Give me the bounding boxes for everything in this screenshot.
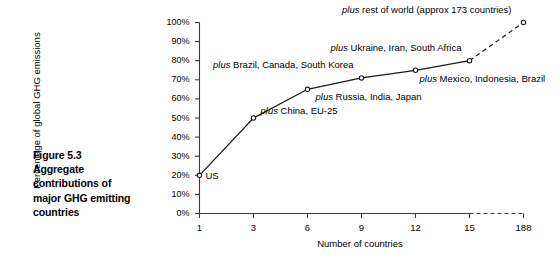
- data-point-annotation: US: [206, 170, 219, 181]
- annotation-text: Brazil, Canada, South Korea: [230, 59, 353, 70]
- data-point-marker: [413, 68, 417, 72]
- x-axis-tick-label: 1: [180, 223, 220, 233]
- annotation-emphasis: plus: [420, 73, 437, 84]
- data-point-annotation: plus rest of world (approx 173 countries…: [0, 4, 512, 15]
- annotation-text: China, EU-25: [278, 105, 338, 116]
- data-point-marker: [521, 20, 525, 24]
- data-point-annotation: plus Russia, India, Japan: [316, 91, 422, 102]
- y-axis-tick-label: 30%: [146, 152, 190, 161]
- data-point-annotation: plus Mexico, Indonesia, Brazil: [420, 73, 546, 84]
- annotation-emphasis: plus: [316, 91, 333, 102]
- line-chart: Percentage of global GHG emissions Numbe…: [0, 0, 560, 261]
- x-axis-tick-label: 3: [234, 223, 274, 233]
- data-point-marker: [251, 116, 255, 120]
- annotation-emphasis: plus: [342, 4, 359, 15]
- y-axis-tick-label: 20%: [146, 171, 190, 180]
- y-axis-tick-label: 60%: [146, 94, 190, 103]
- data-point-marker: [467, 59, 471, 63]
- annotation-text: US: [206, 170, 219, 181]
- y-axis-tick-label: 100%: [146, 18, 190, 27]
- y-axis-title: Percentage of global GHG emissions: [31, 11, 42, 211]
- data-point-marker: [305, 87, 309, 91]
- series-line-dashed: [470, 23, 524, 61]
- y-axis-tick-label: 50%: [146, 114, 190, 123]
- y-axis-tick-label: 70%: [146, 75, 190, 84]
- annotation-text: Ukraine, Iran, South Africa: [348, 42, 462, 53]
- annotation-emphasis: plus: [213, 59, 230, 70]
- x-axis-title: Number of countries: [250, 238, 470, 249]
- data-point-annotation: plus Ukraine, Iran, South Africa: [0, 42, 462, 53]
- y-axis-tick-label: 40%: [146, 133, 190, 142]
- x-axis-tick-label: 9: [342, 223, 382, 233]
- annotation-text: Russia, India, Japan: [333, 91, 422, 102]
- x-axis-tick-label: 6: [288, 223, 328, 233]
- x-axis-tick-label: 12: [396, 223, 436, 233]
- data-point-marker: [197, 173, 201, 177]
- annotation-emphasis: plus: [261, 105, 278, 116]
- data-point-marker: [359, 76, 363, 80]
- y-axis-tick-label: 10%: [146, 190, 190, 199]
- data-point-annotation: plus China, EU-25: [261, 105, 338, 116]
- data-point-annotation: plus Brazil, Canada, South Korea: [0, 59, 354, 70]
- annotation-text: Mexico, Indonesia, Brazil: [437, 73, 545, 84]
- x-axis-tick-label: 188: [504, 223, 544, 233]
- annotation-emphasis: plus: [331, 42, 348, 53]
- x-axis-tick-label: 15: [450, 223, 490, 233]
- y-axis-tick-label: 0%: [146, 209, 190, 218]
- annotation-text: rest of world (approx 173 countries): [359, 4, 511, 15]
